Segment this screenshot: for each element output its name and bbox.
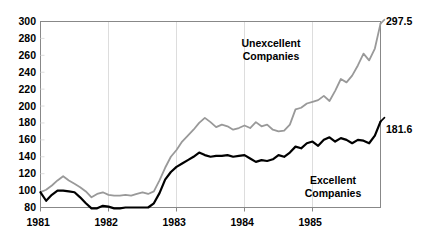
x-axis-tick-label: 1982 xyxy=(95,216,118,228)
series-line-unexcellent-companies xyxy=(41,24,381,198)
series-label-excellent: Excellent Companies xyxy=(292,174,374,199)
y-axis-ticks xyxy=(41,38,45,190)
line-chart: 80100120140160180200220240260280300 1981… xyxy=(0,0,424,251)
series-label-excellent-line2: Companies xyxy=(292,187,374,200)
y-axis-tick-label: 200 xyxy=(2,100,36,112)
series-label-excellent-line1: Excellent xyxy=(292,174,374,187)
chart-plot-area xyxy=(0,0,424,251)
y-axis-tick-label: 240 xyxy=(2,66,36,78)
series-label-unexcellent: Unexcellent Companies xyxy=(228,37,314,62)
series-label-unexcellent-line2: Companies xyxy=(228,50,314,63)
endpoint-value-unexcellent: 297.5 xyxy=(386,15,412,27)
y-axis-tick-label: 100 xyxy=(2,184,36,196)
y-axis-tick-label: 300 xyxy=(2,15,36,27)
y-axis-tick-label: 260 xyxy=(2,49,36,61)
x-axis-tick-label: 1983 xyxy=(163,216,186,228)
x-axis-tick-label: 1981 xyxy=(27,216,50,228)
x-axis-tick-label: 1985 xyxy=(299,216,322,228)
x-axis-tick-label: 1984 xyxy=(231,216,254,228)
y-axis-tick-label: 280 xyxy=(2,32,36,44)
y-axis-tick-label: 160 xyxy=(2,133,36,145)
y-axis-tick-label: 220 xyxy=(2,83,36,95)
endpoint-value-excellent: 181.6 xyxy=(386,123,412,135)
series-label-unexcellent-line1: Unexcellent xyxy=(228,37,314,50)
y-axis-tick-label: 80 xyxy=(2,201,36,213)
y-axis-tick-label: 140 xyxy=(2,150,36,162)
y-axis-tick-label: 180 xyxy=(2,116,36,128)
x-axis-ticks xyxy=(41,208,313,212)
endpoint-leaders xyxy=(381,20,385,122)
y-axis-tick-label: 120 xyxy=(2,167,36,179)
